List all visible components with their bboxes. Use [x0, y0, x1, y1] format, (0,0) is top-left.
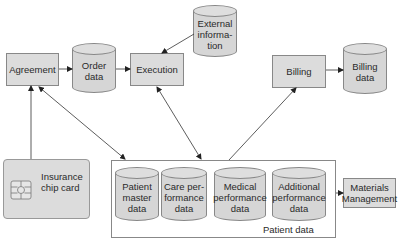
agreement-label: Agreement [9, 64, 55, 75]
arrow-external-to-execution [162, 34, 194, 53]
insurance-card-line1: Insurance [41, 171, 83, 182]
additional-performance-line2: performance [272, 192, 325, 203]
chip-icon [10, 180, 32, 200]
agreement-box: Agreement [6, 53, 59, 86]
patient-master-line2: master [122, 192, 151, 203]
billing-data-cylinder: Billing data [343, 43, 387, 94]
materials-management-box: Materials Management [343, 178, 396, 208]
billing-data-line1: Billing [352, 61, 377, 72]
care-performance-line3: data [175, 203, 194, 214]
arrow-patient-data-to-billing [229, 88, 296, 160]
patient-master-data-cylinder: Patient master data [115, 167, 159, 221]
arrow-agreement-patient-data [39, 87, 125, 159]
order-data-cylinder: Order data [72, 43, 116, 93]
care-performance-data-cylinder: Care per- formance data [161, 167, 207, 221]
external-info-line2: informa- [198, 29, 233, 40]
patient-master-line1: Patient [122, 181, 152, 192]
external-info-line3: tion [207, 40, 222, 51]
medical-performance-line2: performance [213, 192, 266, 203]
care-performance-line2: formance [164, 192, 204, 203]
billing-data-line2: data [356, 72, 375, 83]
materials-management-line2: Management [342, 193, 397, 204]
additional-performance-data-cylinder: Additional performance data [272, 167, 326, 221]
medical-performance-line3: data [231, 203, 250, 214]
insurance-chip-card: Insurance chip card [3, 159, 90, 219]
order-data-line2: data [85, 71, 104, 82]
external-information-cylinder: External informa- tion [193, 5, 237, 57]
arrow-execution-patient-data [157, 87, 201, 159]
external-info-line1: External [198, 18, 233, 29]
order-data-line1: Order [82, 60, 106, 71]
billing-box: Billing [272, 55, 326, 88]
care-performance-line1: Care per- [164, 181, 204, 192]
materials-management-line1: Materials [350, 182, 389, 193]
billing-label: Billing [286, 66, 311, 77]
execution-box: Execution [130, 53, 184, 86]
execution-label: Execution [136, 64, 178, 75]
medical-performance-data-cylinder: Medical performance data [214, 167, 266, 221]
additional-performance-line3: data [290, 203, 309, 214]
patient-data-label: Patient data [263, 224, 314, 235]
medical-performance-line1: Medical [224, 181, 257, 192]
insurance-card-line2: chip card [41, 182, 80, 193]
additional-performance-line1: Additional [278, 181, 320, 192]
patient-master-line3: data [128, 203, 147, 214]
